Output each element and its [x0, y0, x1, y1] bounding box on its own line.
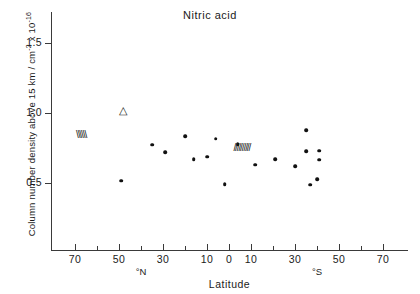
hemisphere-label: °S: [302, 266, 332, 277]
x-tick--50: [119, 244, 120, 250]
x-tick-30: [295, 244, 296, 250]
y-axis-line: [51, 12, 52, 251]
x-minor-tick--60: [97, 246, 98, 250]
x-minor-tick-40: [317, 246, 318, 250]
left-hatch-band: \\\\\\: [76, 130, 86, 140]
x-tick-label: 50: [324, 253, 354, 265]
data-point: [273, 157, 277, 161]
x-tick-label: 70: [60, 253, 90, 265]
data-point: [236, 142, 240, 146]
y-axis-exponent-2: -16: [25, 12, 32, 23]
y-tick-1.5: [45, 43, 51, 44]
y-tick-label: 1.5: [0, 36, 42, 48]
data-point: [183, 134, 187, 138]
x-tick-50: [339, 244, 340, 250]
x-tick-label: 30: [280, 253, 310, 265]
data-point: [317, 158, 321, 162]
x-tick-label: 30: [148, 253, 178, 265]
open-triangle-marker: △: [119, 105, 127, 116]
data-point: [223, 182, 227, 186]
y-tick-0.5: [45, 183, 51, 184]
y-axis-title-text: Column number density above 15 km / cm: [26, 51, 37, 237]
data-point: [192, 157, 196, 161]
x-tick-70: [383, 244, 384, 250]
x-tick--70: [75, 244, 76, 250]
y-tick-label: 1.0: [0, 106, 42, 118]
data-point: [317, 149, 321, 153]
x-tick-label: 70: [368, 253, 398, 265]
x-minor-tick--20: [185, 246, 186, 250]
x-tick-label: 50: [104, 253, 134, 265]
data-point: [304, 128, 308, 132]
data-point: [304, 149, 308, 153]
hemisphere-label: °N: [126, 266, 156, 277]
x-axis-title: Latitude: [51, 278, 408, 290]
data-point: [309, 183, 313, 187]
nitric-acid-scatter-chart: Nitric acid Column number density above …: [0, 0, 420, 294]
x-axis-line: [51, 250, 408, 251]
chart-title: Nitric acid: [0, 9, 420, 21]
x-tick-0: [229, 244, 230, 250]
y-tick-1.0: [45, 113, 51, 114]
x-minor-tick--40: [141, 246, 142, 250]
x-tick-label: 10: [236, 253, 266, 265]
x-tick-10: [251, 244, 252, 250]
x-minor-tick-20: [273, 246, 274, 250]
data-point: [163, 151, 167, 155]
data-point: [254, 163, 258, 167]
data-point: [150, 143, 154, 147]
y-tick-label: 0.5: [0, 176, 42, 188]
x-tick--30: [163, 244, 164, 250]
x-minor-tick-60: [361, 246, 362, 250]
data-point: [119, 179, 123, 183]
x-tick--10: [207, 244, 208, 250]
data-point: [205, 155, 209, 159]
data-point: [293, 164, 297, 168]
data-point: [315, 177, 319, 181]
data-point: [214, 137, 218, 141]
